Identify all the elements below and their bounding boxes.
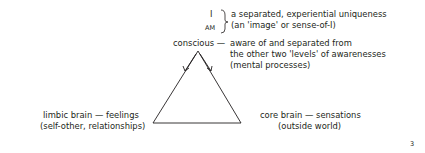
uniqueness-line1: a separated, experiential uniqueness [231, 9, 387, 19]
am-label: AM [205, 23, 215, 33]
arrow-down-right-icon [200, 54, 212, 71]
i-label: I [210, 9, 212, 19]
conscious-desc-line2: the other two 'levels' of awarenesses [230, 49, 386, 59]
limbic-line1: limbic brain — feelings [43, 110, 139, 120]
uniqueness-line2: (an 'image' or sense-of-I) [231, 20, 336, 30]
conscious-label: conscious — [173, 38, 225, 48]
arrow-down-left-icon [183, 54, 196, 71]
limbic-line2: (self-other, relationships) [40, 121, 145, 131]
conscious-desc-line3: (mental processes) [230, 60, 310, 70]
core-line2: (outside world) [278, 121, 341, 131]
conscious-desc-line1: aware of and separated from [230, 38, 352, 48]
page-number: 3 [410, 139, 414, 149]
triangle-shape [153, 51, 241, 123]
brace-icon [221, 10, 228, 33]
core-line1: core brain — sensations [260, 110, 361, 120]
